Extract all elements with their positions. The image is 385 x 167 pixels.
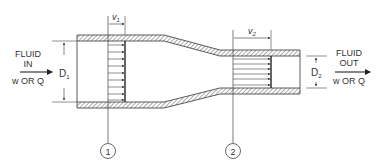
pipe-bottom-wall: [77, 88, 300, 108]
svg-text:2: 2: [230, 147, 235, 157]
section-1-marker: 1: [101, 144, 116, 159]
velocity-2-label: v2: [248, 26, 257, 37]
pipe-flow-diagram: v1 v2 D1 D2 FLUID IN w OR Q FLUID OUT w …: [0, 0, 385, 167]
svg-text:1: 1: [105, 147, 110, 157]
fluid-in-flow-label: w OR Q: [11, 76, 44, 86]
fluid-in-label-line1: FLUID: [15, 49, 42, 59]
diameter-1-label: D1: [59, 68, 70, 80]
section-2-marker: 2: [226, 144, 241, 159]
fluid-out-flow-label: w OR Q: [332, 76, 365, 86]
velocity-profile-2: [233, 56, 271, 88]
fluid-out-label-line1: FLUID: [336, 48, 363, 58]
fluid-in-label-line2: IN: [24, 59, 33, 69]
velocity-profile-1: [108, 41, 125, 102]
diameter-2-label: D2: [311, 67, 322, 79]
velocity-1-label: v1: [112, 12, 120, 23]
fluid-out-label-line2: OUT: [340, 58, 360, 68]
